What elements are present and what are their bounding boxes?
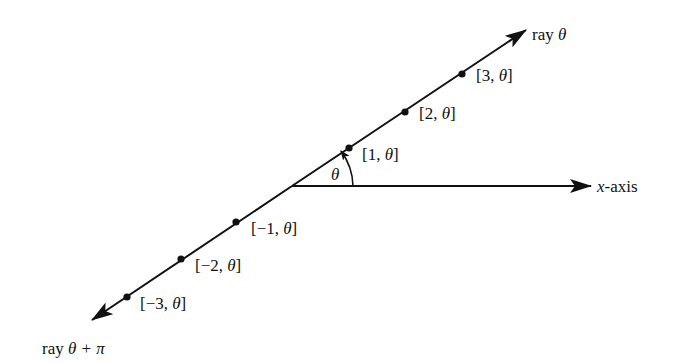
x-axis-label: x-axis: [596, 177, 638, 196]
angle-arc: [341, 151, 353, 186]
point-label-rneg2: [−2, θ]: [195, 256, 241, 275]
point-dot-r3: [458, 70, 465, 77]
point-label-rneg1: [−1, θ]: [251, 219, 297, 238]
point-label-rneg3: [−3, θ]: [140, 294, 186, 313]
ray-theta-line: [292, 30, 526, 186]
ray-theta-plus-pi-line: [92, 186, 292, 320]
ray-theta-label: ray θ: [532, 25, 566, 44]
point-dot-rneg3: [123, 293, 130, 300]
angle-theta-label: θ: [331, 165, 339, 184]
point-dot-rneg2: [177, 255, 184, 262]
point-dot-r2: [401, 108, 408, 115]
point-dot-rneg1: [232, 218, 239, 225]
point-label-r1: [1, θ]: [362, 145, 399, 164]
point-dot-r1: [345, 144, 352, 151]
point-label-r3: [3, θ]: [476, 66, 513, 85]
polar-ray-diagram: ray θ x-axis θ [3, θ] [2, θ] [1, θ] [−1,…: [0, 0, 694, 363]
ray-theta-plus-pi-label: ray θ + π: [42, 339, 105, 358]
point-label-r2: [2, θ]: [419, 104, 456, 123]
